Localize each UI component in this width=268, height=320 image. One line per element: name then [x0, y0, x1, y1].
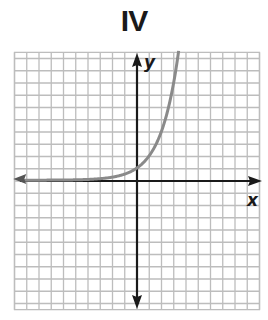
- x-axis-label: x: [247, 190, 258, 210]
- y-axis-down-arrow-icon: [132, 295, 142, 309]
- y-axis-label: y: [144, 52, 155, 72]
- y-axis-up-arrow-icon: [132, 53, 142, 67]
- coordinate-plane: [0, 0, 268, 320]
